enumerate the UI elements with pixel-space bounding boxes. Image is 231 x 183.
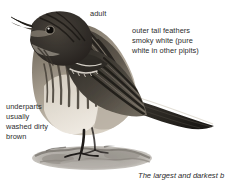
bill [11, 17, 33, 30]
plate-caption: The largest and darkest b [138, 171, 224, 180]
label-adult: adult [90, 9, 106, 19]
annotation-underparts: underparts usually washed dirty brown [6, 102, 48, 142]
annotation-outer-tail-feathers: outer tail feathers smoky white (pure wh… [132, 26, 199, 56]
ground-patch [32, 145, 152, 170]
head [11, 11, 92, 66]
